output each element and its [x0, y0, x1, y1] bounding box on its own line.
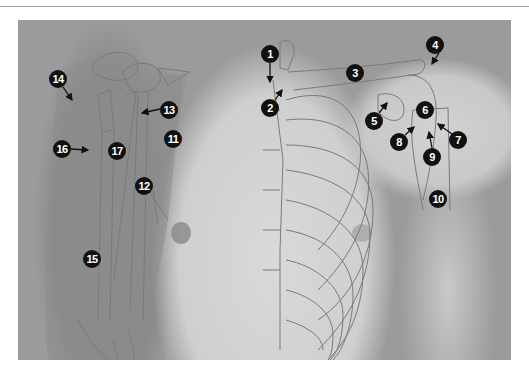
callout-marker-2: 2	[261, 99, 279, 117]
page-header-rule	[0, 6, 529, 7]
callout-marker-13: 13	[160, 101, 178, 119]
left-nipple	[171, 222, 191, 244]
callout-marker-15: 15	[83, 250, 101, 268]
callout-marker-14: 14	[49, 70, 67, 88]
callout-marker-10: 10	[429, 190, 447, 208]
callout-marker-6: 6	[416, 101, 434, 119]
anatomy-figure: 1 2 3 4 5 6 7 8 9 10 11 12 13 14 15 16 1…	[18, 20, 511, 360]
callout-marker-8: 8	[390, 133, 408, 151]
callout-marker-7: 7	[449, 131, 467, 149]
callout-marker-1: 1	[261, 45, 279, 63]
callout-marker-12: 12	[135, 177, 153, 195]
callout-marker-3: 3	[346, 64, 364, 82]
callout-marker-5: 5	[365, 112, 383, 130]
callout-marker-11: 11	[164, 130, 182, 148]
callout-marker-9: 9	[423, 148, 441, 166]
callout-marker-4: 4	[426, 36, 444, 54]
callout-marker-16: 16	[53, 140, 71, 158]
callout-marker-17: 17	[108, 142, 126, 160]
